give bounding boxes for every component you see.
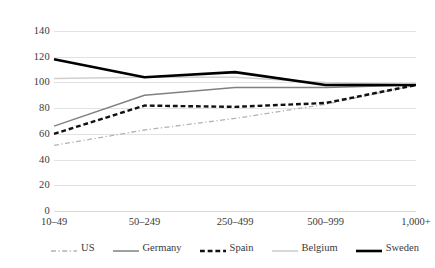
y-axis-tick-label: 60: [6, 129, 50, 139]
chart-legend: USGermanySpainBelgiumSweden: [54, 238, 416, 256]
legend-swatch-us-icon: [51, 242, 77, 252]
y-axis-tick-label: 20: [6, 180, 50, 190]
legend-item-sweden[interactable]: Sweden: [356, 242, 419, 253]
series-line-germany: [54, 85, 416, 126]
x-axis-tick-label: 50–249: [129, 216, 161, 228]
legend-swatch-belgium-icon: [272, 242, 298, 252]
y-axis-tick-label: 0: [6, 206, 50, 216]
x-axis-tick-label: 250–499: [217, 216, 254, 228]
legend-item-us[interactable]: US: [51, 242, 94, 253]
legend-label: Spain: [230, 242, 254, 253]
plot-area: [54, 31, 416, 211]
series-line-us: [54, 85, 416, 145]
x-axis-tick-label: 1,000+: [401, 216, 431, 228]
y-axis-tick-label: 40: [6, 155, 50, 165]
series-lines: [54, 31, 416, 211]
legend-item-germany[interactable]: Germany: [113, 242, 182, 253]
legend-item-spain[interactable]: Spain: [200, 242, 254, 253]
legend-swatch-spain-icon: [200, 242, 226, 252]
y-axis-tick-label: 80: [6, 103, 50, 113]
legend-label: Belgium: [302, 242, 338, 253]
series-line-sweden: [54, 59, 416, 85]
legend-label: Sweden: [386, 242, 419, 253]
legend-item-belgium[interactable]: Belgium: [272, 242, 338, 253]
axis-baseline: [54, 211, 416, 212]
legend-swatch-germany-icon: [113, 242, 139, 252]
y-axis-tick-label: 140: [6, 26, 50, 36]
x-axis-tick-label: 500–999: [307, 216, 344, 228]
x-axis-tick-label: 10–49: [41, 216, 67, 228]
y-axis-tick-label: 120: [6, 52, 50, 62]
x-axis-labels: 10–4950–249250–499500–9991,000+: [54, 216, 416, 230]
series-line-spain: [54, 85, 416, 134]
legend-label: US: [81, 242, 94, 253]
y-axis-tick-label: 100: [6, 77, 50, 87]
line-chart: 020406080100120140 10–4950–249250–499500…: [0, 0, 435, 268]
legend-swatch-sweden-icon: [356, 242, 382, 252]
legend-label: Germany: [143, 242, 182, 253]
